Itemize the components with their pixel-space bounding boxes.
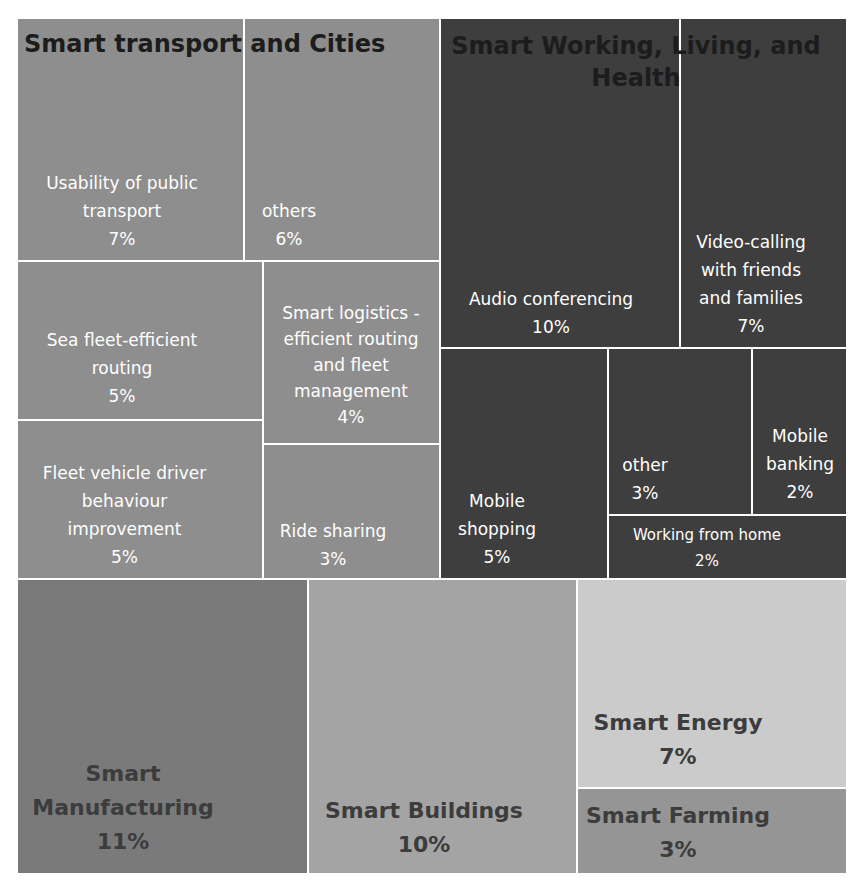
tile-ride-sharing[interactable]: Ride sharing 3% [264,445,439,578]
tile-value: 5% [441,543,553,571]
tile-value: 5% [22,382,222,410]
tile-label: routing [22,354,222,382]
tile-label: Working from home [609,522,805,548]
tile-smart-manufacturing[interactable]: Smart Manufacturing 11% [18,580,307,873]
tile-sea-fleet-routing[interactable]: Sea fleet-efficient routing 5% [18,262,262,419]
tile-value: 4% [266,404,436,430]
tile-value: 11% [18,825,228,859]
tile-value: 7% [681,312,821,340]
tile-value: 10% [441,313,661,341]
tile-label: with friends [681,256,821,284]
tile-label: others [249,197,329,225]
group-title-line: Smart Working, Living, and [446,30,826,62]
tile-value: 3% [611,479,679,507]
tile-label: Smart logistics - [266,300,436,326]
tile-value: 3% [268,545,398,573]
tile-label: improvement [22,515,227,543]
tile-label: behaviour [22,487,227,515]
tile-value: 5% [22,543,227,571]
tile-label: Usability of public [22,169,222,197]
tile-label: Video-calling [681,228,821,256]
tile-value: 7% [578,740,778,774]
tile-label: Smart Energy [578,706,778,740]
tile-smart-energy[interactable]: Smart Energy 7% [578,580,846,787]
tile-label: Sea fleet-efficient [22,326,222,354]
tile-smart-logistics[interactable]: Smart logistics - efficient routing and … [264,262,439,443]
tile-label: banking [757,450,843,478]
tile-value: 2% [609,548,805,574]
tile-smart-buildings[interactable]: Smart Buildings 10% [309,580,576,873]
tile-value: 10% [309,828,539,862]
tile-value: 3% [578,833,778,867]
tile-smart-farming[interactable]: Smart Farming 3% [578,789,846,873]
tile-label: Audio conferencing [441,285,661,313]
tile-label: Mobile [441,487,553,515]
tile-label: Smart Buildings [309,794,539,828]
tile-label: management [266,378,436,404]
tile-label: Fleet vehicle driver [22,459,227,487]
group-title-line: Health [446,62,826,94]
tile-working-from-home[interactable]: Working from home 2% [609,516,846,578]
tile-label: and fleet [266,352,436,378]
tile-mobile-banking[interactable]: Mobile banking 2% [753,349,846,514]
tile-mobile-shopping[interactable]: Mobile shopping 5% [441,349,607,578]
tile-label: transport [22,197,222,225]
tile-label: Mobile [757,422,843,450]
tile-label: and families [681,284,821,312]
tile-value: 7% [22,225,222,253]
tile-label: Smart [18,757,228,791]
group-title-working: Smart Working, Living, and Health [446,30,826,94]
tile-label: Smart Farming [578,799,778,833]
tile-value: 2% [757,478,843,506]
tile-label: Ride sharing [268,517,398,545]
tile-label: efficient routing [266,326,436,352]
tile-label: other [611,451,679,479]
tile-label: Manufacturing [18,791,228,825]
tile-other[interactable]: other 3% [609,349,751,514]
group-title-transport: Smart transport and Cities [24,28,385,60]
tile-label: shopping [441,515,553,543]
tile-fleet-vehicle-driver[interactable]: Fleet vehicle driver behaviour improveme… [18,421,262,578]
tile-value: 6% [249,225,329,253]
